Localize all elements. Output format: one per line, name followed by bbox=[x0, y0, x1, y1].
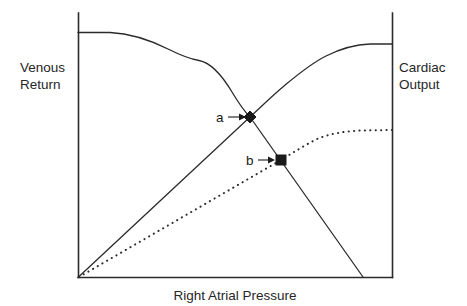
right-axis-label-line2: Output bbox=[399, 77, 440, 92]
point-b-marker bbox=[276, 155, 286, 165]
point-b-arrow bbox=[258, 157, 275, 164]
x-axis-caption: Right Atrial Pressure bbox=[173, 288, 296, 303]
left-axis-label-line1: Venous bbox=[20, 60, 65, 75]
point-a-arrow bbox=[228, 114, 246, 121]
physiology-chart: a b Venous Return Cardiac Output Right A… bbox=[0, 0, 467, 306]
left-axis-label-line2: Return bbox=[20, 77, 61, 92]
point-b-label: b bbox=[246, 153, 254, 168]
depressed-cardiac-output-curve bbox=[79, 130, 393, 277]
point-a-label: a bbox=[216, 110, 224, 125]
figure-page: a b Venous Return Cardiac Output Right A… bbox=[0, 0, 467, 306]
right-axis-label-line1: Cardiac bbox=[399, 60, 446, 75]
cardiac-output-curve bbox=[79, 44, 393, 277]
venous-return-curve bbox=[78, 33, 363, 278]
